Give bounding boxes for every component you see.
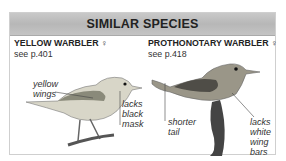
annotation-shorter-tail: shortertail	[168, 117, 196, 137]
species-name: PROTHONOTARY WARBLER ♀	[148, 38, 278, 48]
species-yellow-warbler: YELLOW WARBLER ♀ see p.401	[14, 38, 108, 59]
panel-title: SIMILAR SPECIES	[86, 17, 198, 31]
panel-header: SIMILAR SPECIES	[10, 13, 275, 36]
leader-line	[163, 83, 167, 123]
similar-species-panel: SIMILAR SPECIES YELLOW WARBLER ♀ see p.4…	[9, 12, 276, 155]
annotation-lacks-black-mask: lacksblackmask	[122, 99, 144, 129]
species-prothonotary-warbler: PROTHONOTARY WARBLER ♀ see p.418	[148, 38, 278, 59]
annotation-lacks-white-wing-bars: lackswhitewingbars	[250, 117, 271, 157]
leader-line	[232, 93, 256, 119]
species-name: YELLOW WARBLER ♀	[14, 38, 108, 48]
page-reference: see p.418	[148, 49, 278, 59]
page-reference: see p.401	[14, 49, 108, 59]
leader-line	[55, 88, 95, 100]
